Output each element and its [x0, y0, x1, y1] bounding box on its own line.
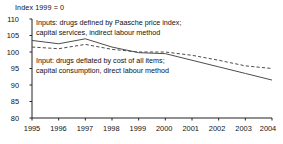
annotation-lower-line2: capital consumption, direct labour metho…: [36, 66, 169, 76]
annotation-upper: Inputs: drugs defined by Paasche price i…: [36, 18, 181, 37]
annotation-lower-line1: Input: drugs deflated by cost of all ite…: [36, 56, 169, 66]
annotation-lower: Input: drugs deflated by cost of all ite…: [36, 56, 169, 75]
chart-container: Index 1999 = 0 110 105 100 95 90 85 80 1…: [0, 0, 283, 144]
annotation-upper-line1: Inputs: drugs defined by Paasche price i…: [36, 18, 181, 28]
annotation-upper-line2: capital services, indirect labour method: [36, 28, 181, 38]
